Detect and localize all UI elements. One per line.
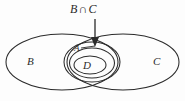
intersection-label-right: C <box>89 2 97 16</box>
set-diagram: B∩C B C A D <box>0 0 185 101</box>
intersection-operator-icon: ∩ <box>78 2 89 16</box>
set-b-ellipse <box>6 34 118 90</box>
intersection-label: B∩C <box>70 3 97 15</box>
set-b-label: B <box>27 56 34 67</box>
intersection-label-left: B <box>70 2 78 16</box>
set-a-label: A <box>74 44 80 53</box>
set-d-label: D <box>83 60 91 71</box>
set-c-label: C <box>153 56 160 67</box>
